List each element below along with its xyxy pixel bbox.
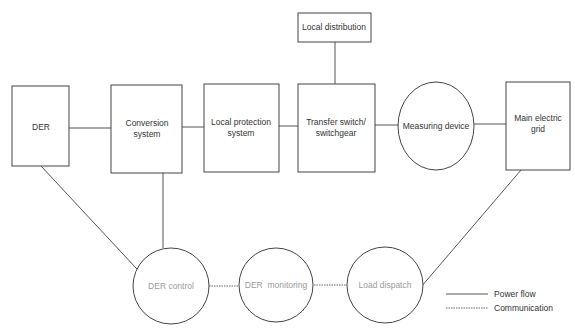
node-der-control: DER control — [133, 248, 209, 324]
node-transfer-switch: Transfer switch/ switchgear — [298, 84, 375, 172]
node-protection-label-1: Local protection — [211, 117, 271, 127]
node-der-label: DER — [32, 122, 50, 132]
node-transfer-label-1: Transfer switch/ — [306, 117, 366, 127]
node-local-protection-system: Local protection system — [204, 84, 279, 172]
der-system-diagram: DER Conversion system Local protection s… — [0, 0, 575, 332]
node-load-dispatch-label: Load dispatch — [359, 280, 412, 290]
node-grid-label-1: Main electric — [514, 113, 562, 123]
node-der-monitoring-label: DER monitoring — [245, 280, 308, 290]
edge-grid-loaddispatch — [421, 170, 521, 287]
node-grid-label-2: grid — [531, 124, 545, 134]
node-protection-label-2: system — [228, 128, 255, 138]
node-main-electric-grid: Main electric grid — [506, 82, 570, 170]
node-measuring-label: Measuring device — [403, 121, 470, 131]
node-conversion-label-1: Conversion — [126, 118, 169, 128]
node-der-monitoring: DER monitoring — [239, 248, 313, 322]
node-der-control-label: DER control — [148, 281, 194, 291]
node-der: DER — [12, 86, 69, 166]
node-load-dispatch: Load dispatch — [347, 247, 423, 323]
node-conversion-system: Conversion system — [111, 85, 182, 173]
legend-power-label: Power flow — [494, 289, 536, 299]
node-local-distribution: Local distribution — [298, 13, 371, 42]
node-transfer-label-2: switchgear — [316, 128, 357, 138]
node-distribution-label: Local distribution — [302, 22, 366, 32]
legend: Power flow Communication — [446, 289, 553, 313]
node-conversion-label-2: system — [134, 129, 161, 139]
node-measuring-device: Measuring device — [398, 82, 474, 170]
legend-communication-label: Communication — [494, 303, 553, 313]
